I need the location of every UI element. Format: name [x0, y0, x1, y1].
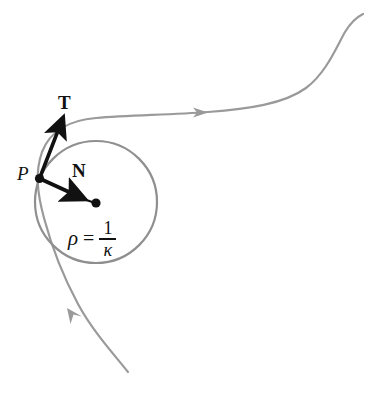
formula-rho-symbol: ρ [68, 226, 78, 251]
flow-arrow-lower-icon [67, 308, 82, 324]
osculating-circle-figure: P T N ρ = 1 κ [0, 0, 379, 398]
label-tangent-vector: T [58, 92, 71, 114]
point-p-dot [35, 174, 44, 183]
label-point-p: P [17, 163, 29, 185]
diagram-canvas [0, 0, 379, 398]
formula-fraction: 1 κ [99, 219, 116, 259]
normal-vector-N [40, 179, 70, 193]
formula-numerator: 1 [100, 219, 115, 238]
formula-equals-sign: = [83, 227, 94, 250]
curve-group [38, 14, 363, 372]
trajectory-curve [38, 14, 363, 372]
radius-formula: ρ = 1 κ [68, 219, 116, 259]
label-normal-vector: N [72, 160, 86, 182]
formula-denominator: κ [101, 240, 116, 259]
center-of-curvature-dot [91, 198, 100, 207]
